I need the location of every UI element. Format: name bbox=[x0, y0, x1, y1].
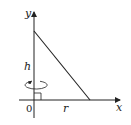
height-label: h bbox=[24, 60, 31, 73]
hypotenuse-line bbox=[34, 31, 90, 100]
cone-diagram: y x 0 h r bbox=[0, 0, 131, 125]
diagram-canvas: y x 0 h r bbox=[0, 0, 131, 125]
right-angle-marker bbox=[34, 93, 41, 100]
origin-label: 0 bbox=[26, 103, 32, 114]
y-axis-label: y bbox=[24, 7, 32, 20]
radius-label: r bbox=[63, 102, 69, 115]
x-axis-label: x bbox=[116, 101, 123, 114]
rotation-arrow-icon bbox=[25, 81, 47, 89]
